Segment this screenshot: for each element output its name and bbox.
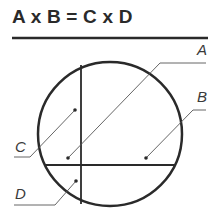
label-a-callout: A [66,41,207,160]
point-c [73,108,77,112]
leader-line-b [146,110,206,158]
label-d: D [15,185,26,202]
point-d [74,179,78,183]
label-a: A [196,41,207,58]
label-c: C [15,138,26,155]
label-b-callout: B [144,88,207,160]
label-b: B [197,88,207,105]
leader-line-a [68,63,206,158]
circle [38,62,182,206]
point-b [144,156,148,160]
point-a [66,156,70,160]
intersecting-chords-diagram: A B C D [0,0,220,219]
label-c-callout: C [14,108,77,157]
